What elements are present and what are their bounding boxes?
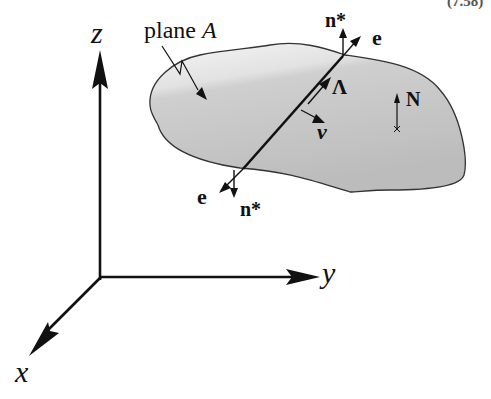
n-label: N (406, 89, 420, 109)
n-star-top-label: n* (325, 10, 346, 30)
x-axis-arrowhead-icon (29, 322, 59, 356)
e-bottom-label: e (197, 186, 207, 208)
n-star-bottom-arrowhead-icon (230, 188, 238, 198)
nu-label: ν (317, 121, 327, 143)
e-top-label: e (372, 27, 382, 49)
plane-a-label: plane A (144, 18, 217, 42)
x-axis (45, 277, 101, 333)
plane-a-label-text: plane (144, 17, 202, 43)
z-axis-label: z (91, 18, 103, 48)
n-star-bottom-label: n* (240, 199, 261, 219)
lambda-label: Λ (332, 77, 347, 98)
plane-a-label-symbol: A (202, 17, 217, 43)
plane-a-surface (150, 43, 465, 192)
x-axis-label: x (15, 357, 28, 387)
y-axis-label: y (322, 258, 335, 288)
equation-number: (7.58) (447, 0, 483, 9)
